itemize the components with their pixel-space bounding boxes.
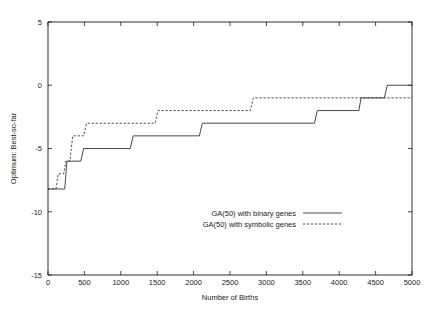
y-tick-label: 5 [38, 18, 42, 27]
x-tick-label: 4000 [331, 278, 348, 287]
x-tick-label: 2000 [185, 278, 202, 287]
legend-label-1: GA(50) with symbolic genes [203, 220, 297, 229]
x-tick-label: 1000 [112, 278, 129, 287]
y-tick-label: -15 [31, 271, 42, 280]
x-tick-label: 4500 [367, 278, 384, 287]
y-tick-label: 0 [38, 81, 42, 90]
x-tick-label: 5000 [404, 278, 421, 287]
x-tick-label: 0 [46, 278, 50, 287]
x-tick-label: 500 [78, 278, 91, 287]
x-tick-label: 1500 [149, 278, 166, 287]
y-tick-label: -5 [35, 144, 42, 153]
y-tick-label: -10 [31, 208, 42, 217]
legend-label-0: GA(50) with binary genes [211, 209, 296, 218]
x-tick-label: 3500 [294, 278, 311, 287]
x-tick-label: 2500 [222, 278, 239, 287]
x-axis-title: Number of Births [202, 293, 259, 302]
chart-canvas: 0500100015002000250030003500400045005000… [0, 0, 440, 319]
x-tick-label: 3000 [258, 278, 275, 287]
y-axis-title: Optimum: Best-so-far [9, 112, 18, 184]
chart-figure: 0500100015002000250030003500400045005000… [0, 0, 440, 319]
